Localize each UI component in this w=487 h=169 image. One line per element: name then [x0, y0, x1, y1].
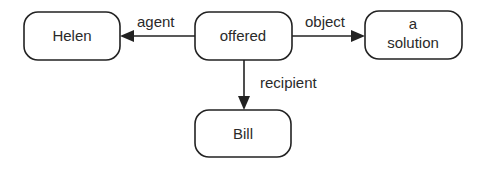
node-solution-label-line2: solution: [387, 34, 439, 51]
edge-label-agent: agent: [137, 13, 175, 30]
diagram-canvas: agent object recipient Helen offered a s…: [0, 0, 487, 169]
node-bill: Bill: [195, 110, 291, 157]
node-bill-label: Bill: [233, 125, 253, 142]
arrowhead-icon: [351, 30, 365, 42]
edge-label-recipient: recipient: [260, 74, 318, 91]
edge-agent: [120, 30, 195, 42]
node-helen: Helen: [24, 12, 120, 60]
node-solution-label-line1: a: [409, 15, 418, 32]
node-offered: offered: [195, 12, 292, 60]
edge-label-object: object: [305, 13, 346, 30]
edge-object: [292, 30, 365, 42]
node-solution: a solution: [365, 11, 462, 59]
node-offered-label: offered: [220, 27, 266, 44]
node-helen-label: Helen: [52, 27, 91, 44]
edge-recipient: [238, 60, 250, 110]
arrowhead-icon: [120, 30, 134, 42]
arrowhead-icon: [238, 96, 250, 110]
